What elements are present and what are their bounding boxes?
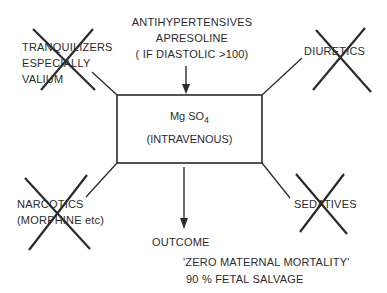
sedatives-label: SEDATIVES — [294, 196, 357, 212]
outcome-label: OUTCOME — [152, 234, 210, 250]
outcome-line2: 90 % FETAL SALVAGE — [183, 271, 349, 288]
narcotics-line2: (MORPHINE etc) — [17, 212, 104, 228]
antihypertensives-label: ANTIHYPERTENSIVES APRESOLINE ( IF DIASTO… — [122, 14, 262, 62]
outcome-details: 'ZERO MATERNAL MORTALITY' 90 % FETAL SAL… — [183, 254, 349, 288]
antihypertensives-line3: ( IF DIASTOLIC >100) — [122, 46, 262, 62]
arrow-down-icon — [182, 66, 190, 94]
narcotics-line1: NARCOTICS — [17, 196, 104, 212]
connector-bottom-left — [86, 163, 117, 197]
tranquilizers-line2: ESPECIALLY — [22, 55, 113, 71]
diuretics-line1: DIURETICS — [304, 43, 365, 59]
tranquilizers-line1: TRANQUILIZERS — [22, 39, 113, 55]
center-box: Mg SO4 (INTRAVENOUS) — [117, 108, 262, 148]
tranquilizers-line3: VALIUM — [22, 71, 113, 87]
intravenous-line: (INTRAVENOUS) — [117, 131, 262, 148]
mgso4-subscript: 4 — [204, 115, 209, 125]
narcotics-label: NARCOTICS (MORPHINE etc) — [17, 196, 104, 228]
connector-top-right — [262, 58, 302, 95]
mgso4-main: Mg SO — [170, 110, 204, 122]
tranquilizers-label: TRANQUILIZERS ESPECIALLY VALIUM — [22, 39, 113, 87]
arrow-down-icon — [180, 167, 188, 229]
cross-out-icon — [313, 28, 371, 92]
sedatives-line1: SEDATIVES — [294, 196, 357, 212]
mgso4-line: Mg SO4 — [117, 108, 262, 129]
antihypertensives-line1: ANTIHYPERTENSIVES — [122, 14, 262, 30]
diuretics-label: DIURETICS — [304, 43, 365, 59]
connector-bottom-right — [262, 163, 290, 198]
outcome-line1: 'ZERO MATERNAL MORTALITY' — [183, 254, 349, 271]
antihypertensives-line2: APRESOLINE — [122, 30, 262, 46]
